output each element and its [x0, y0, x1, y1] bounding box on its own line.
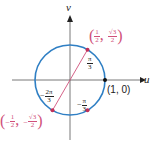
u-axis-label: u: [144, 74, 150, 85]
angle-neg-pi-over-3: −π3: [77, 96, 87, 113]
angle-pi-over-3: π3: [87, 54, 93, 71]
point-top-right: [86, 48, 90, 52]
v-axis-arrow-icon: [67, 15, 73, 22]
v-axis-label: v: [66, 2, 71, 13]
label-point-bottom-left: (−12, −√32): [0, 112, 43, 129]
point-unit: [103, 78, 107, 82]
angle-neg-two-pi-over-3: −2π3: [40, 87, 54, 104]
point-bottom-left: [51, 108, 55, 112]
label-point-top-right: (12, √32): [89, 27, 123, 44]
label-point-unit: (1, 0): [107, 85, 130, 95]
